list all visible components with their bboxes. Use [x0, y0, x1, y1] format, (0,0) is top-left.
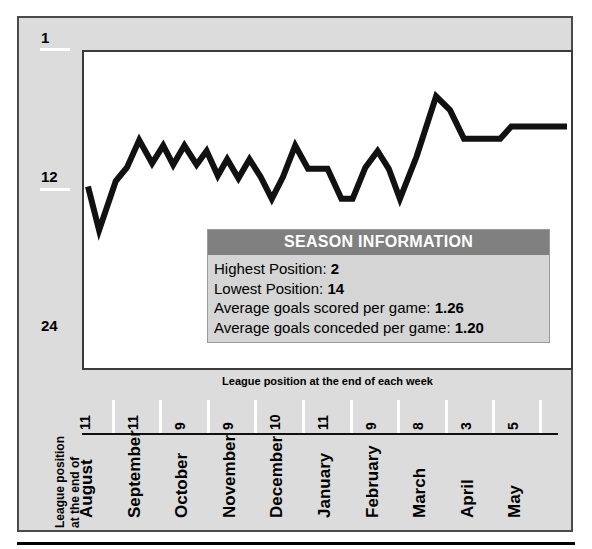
x-week-count-january: 11	[315, 415, 331, 430]
x-week-count-february: 9	[363, 422, 379, 430]
season-information-box: SEASON INFORMATION Highest Position: 2 L…	[207, 229, 550, 343]
y-tick-label-24: 24	[41, 318, 58, 333]
y-axis-title-line2: at the end of	[68, 436, 83, 528]
x-tick-mark	[302, 400, 305, 433]
x-tick-mark	[492, 400, 495, 433]
y-axis-title-line1: League position	[53, 436, 68, 528]
x-month-label-november: November	[220, 435, 240, 518]
chart-panel: 1 12 24 League position at the end of ea…	[17, 16, 573, 532]
y-tick-mark-1	[40, 48, 70, 51]
x-tick-mark	[350, 400, 353, 433]
info-row-highest-position: Highest Position: 2	[214, 259, 543, 279]
info-label-lowest-position: Lowest Position:	[214, 280, 323, 297]
x-tick-mark	[445, 400, 448, 433]
x-month-label-february: February	[363, 445, 383, 518]
season-information-title: SEASON INFORMATION	[208, 230, 549, 255]
y-tick-label-1: 1	[41, 30, 49, 45]
y-tick-mark-12	[40, 188, 70, 191]
x-month-label-march: March	[410, 468, 430, 518]
y-axis-title: League position at the end of	[53, 436, 83, 528]
x-tick-mark	[397, 400, 400, 433]
info-value-goals-scored: 1.26	[435, 299, 464, 316]
x-week-count-august: 11	[77, 415, 93, 430]
info-label-highest-position: Highest Position:	[214, 260, 327, 277]
info-row-goals-conceded: Average goals conceded per game: 1.20	[214, 318, 543, 338]
x-tick-mark	[112, 400, 115, 433]
info-label-goals-scored: Average goals scored per game:	[214, 299, 431, 316]
x-week-count-december: 10	[267, 414, 283, 430]
x-month-label-january: January	[315, 453, 335, 518]
bottom-divider	[17, 542, 575, 545]
x-week-count-november: 9	[220, 422, 236, 430]
x-week-count-september: 11	[125, 415, 141, 430]
x-month-label-may: May	[505, 485, 525, 518]
x-month-label-april: April	[458, 479, 478, 518]
screenshot-root: 1 12 24 League position at the end of ea…	[0, 0, 592, 549]
x-week-count-october: 9	[172, 422, 188, 430]
x-month-label-december: December	[267, 436, 287, 518]
x-week-count-april: 3	[458, 422, 474, 430]
x-tick-mark	[539, 400, 542, 433]
info-row-lowest-position: Lowest Position: 14	[214, 279, 543, 299]
info-value-highest-position: 2	[331, 260, 339, 277]
info-value-goals-conceded: 1.20	[455, 319, 484, 336]
x-tick-mark	[207, 400, 210, 433]
x-week-count-march: 8	[410, 422, 426, 430]
info-value-lowest-position: 14	[327, 280, 344, 297]
x-axis-line	[82, 433, 558, 435]
x-tick-mark	[254, 400, 257, 433]
x-month-label-september: September	[125, 430, 145, 518]
chart-caption: League position at the end of each week	[82, 375, 573, 387]
info-label-goals-conceded: Average goals conceded per game:	[214, 319, 451, 336]
info-row-goals-scored: Average goals scored per game: 1.26	[214, 298, 543, 318]
season-information-body: Highest Position: 2 Lowest Position: 14 …	[208, 255, 549, 342]
position-polyline	[88, 96, 567, 230]
x-week-count-may: 5	[505, 422, 521, 430]
y-tick-label-12: 12	[41, 169, 58, 184]
x-tick-mark	[159, 400, 162, 433]
x-month-label-october: October	[172, 453, 192, 518]
